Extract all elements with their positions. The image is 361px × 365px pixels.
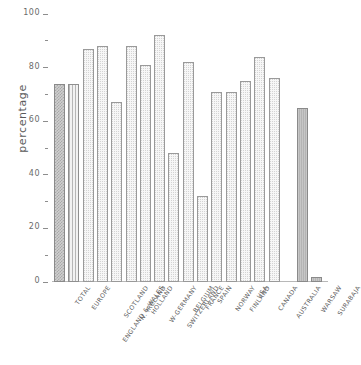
bar (297, 108, 308, 282)
y-tick-mark (43, 282, 48, 283)
plot-area: 020406080100 (52, 14, 328, 282)
x-axis-tick-labels: TOTALEUROPEENGLAND & WALESSCOTLANDN. IRE… (52, 284, 328, 364)
bar (68, 84, 79, 282)
y-tick-label: 0 (34, 276, 40, 285)
y-tick-label: 60 (29, 115, 40, 124)
y-tick-mark (45, 255, 48, 256)
y-tick-label: 20 (29, 222, 40, 231)
y-tick-mark (45, 94, 48, 95)
y-tick-mark (45, 148, 48, 149)
bar (168, 153, 179, 282)
bar (83, 49, 94, 282)
y-tick-mark (43, 121, 48, 122)
bar (254, 57, 265, 282)
bar (140, 65, 151, 282)
x-tick-label: EUROPE (90, 284, 112, 311)
bar (226, 92, 237, 282)
bar (126, 46, 137, 282)
bar (154, 35, 165, 282)
bar (183, 62, 194, 282)
x-tick-label: CANADA (276, 284, 298, 312)
bar (211, 92, 222, 282)
y-tick-mark (43, 14, 48, 15)
bar-series (52, 14, 328, 282)
x-tick-label: TOTAL (73, 284, 91, 306)
y-tick-label: 40 (29, 169, 40, 178)
bar (269, 78, 280, 282)
bar (97, 46, 108, 282)
y-tick-label: 80 (29, 62, 40, 71)
y-axis-label: percentage (16, 59, 29, 179)
x-tick-label: AUSTRALIA (294, 284, 322, 319)
y-tick-mark (43, 174, 48, 175)
bar (197, 196, 208, 282)
bar (111, 102, 122, 282)
y-tick-label: 100 (23, 8, 40, 17)
y-tick-mark (45, 40, 48, 41)
bar (240, 81, 251, 282)
y-tick-mark (45, 201, 48, 202)
y-tick-mark (43, 228, 48, 229)
bar (54, 84, 65, 282)
y-tick-mark (43, 67, 48, 68)
bar (311, 277, 322, 282)
